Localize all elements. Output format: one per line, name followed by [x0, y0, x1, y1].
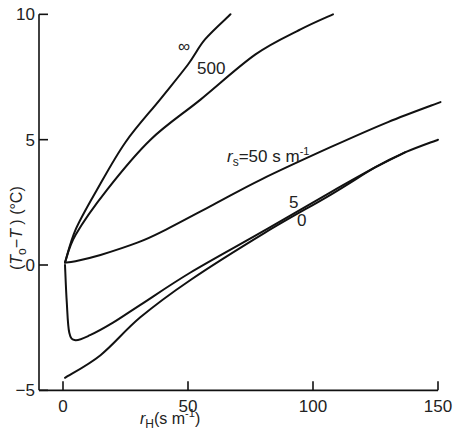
y-tick-label: −5 [16, 381, 35, 400]
curves [65, 14, 441, 378]
curve-label-rs50: rs=50 s m-1 [227, 145, 309, 169]
curve-rs-0 [65, 140, 438, 378]
x-tick-label: 150 [424, 397, 452, 416]
y-tick-label: 0 [26, 256, 35, 275]
curve-label-500: 500 [197, 59, 225, 78]
curve-rs-500 [65, 14, 333, 262]
chart: 050100150−50510 ∞ 500 rs=50 s m-1 5 0 rH… [0, 0, 456, 435]
y-tick-label: 10 [16, 5, 35, 24]
rs-exponent: -1 [300, 145, 310, 157]
curve-labels: ∞ 500 rs=50 s m-1 5 0 [178, 37, 309, 230]
y-tick-label: 5 [26, 131, 35, 150]
curve-label-infinity: ∞ [178, 37, 190, 56]
x-tick-label: 0 [58, 397, 67, 416]
x-tick-label: 100 [299, 397, 327, 416]
curve-rs-50 [65, 102, 441, 262]
ticks: 050100150−50510 [16, 5, 453, 416]
rs-value: =50 s m [239, 147, 300, 166]
curve-label-5: 5 [289, 193, 298, 212]
x-axis-label: rH(s m-1) [140, 407, 200, 431]
curve-label-0: 0 [297, 211, 306, 230]
curve-rs-infinity [65, 14, 231, 262]
axes [39, 14, 438, 390]
